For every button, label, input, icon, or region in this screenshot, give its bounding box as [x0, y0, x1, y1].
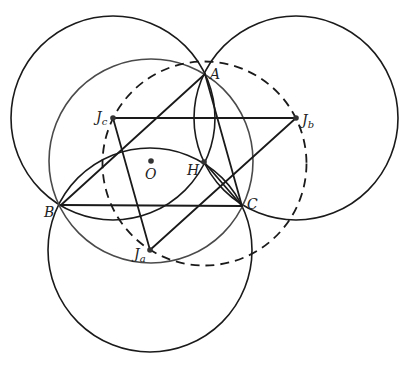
segment-ab [61, 74, 205, 205]
label-ja: Ja [131, 246, 146, 264]
point-jc [110, 115, 116, 121]
segment-jcja [113, 118, 150, 250]
label-b: B [43, 204, 54, 220]
label-a: A [208, 66, 220, 82]
point-jb [293, 115, 299, 121]
point-h [201, 159, 207, 165]
labels-group: A B C H O Ja Jb Jc [43, 66, 314, 264]
label-jb: Jb [299, 112, 314, 130]
segments-group [61, 74, 296, 250]
circles-group [11, 16, 398, 352]
point-ja [147, 247, 153, 253]
point-o [148, 158, 154, 164]
label-o: O [145, 166, 157, 182]
segment-ca [205, 74, 242, 206]
geometry-diagram: A B C H O Ja Jb Jc [0, 0, 408, 370]
points-group [110, 115, 299, 253]
label-jc: Jc [93, 109, 108, 127]
label-h: H [186, 162, 200, 178]
segment-bc [61, 205, 242, 206]
label-c: C [247, 196, 258, 212]
